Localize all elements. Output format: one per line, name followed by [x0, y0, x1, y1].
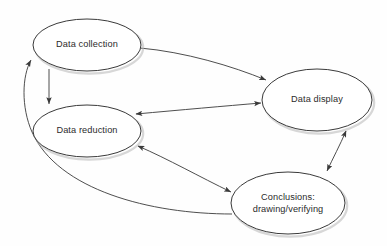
node-data-collection[interactable]	[33, 19, 141, 71]
nodes-layer	[33, 19, 374, 237]
edge-display-conclusions	[327, 131, 346, 171]
diagram-svg	[0, 0, 387, 246]
node-conclusions[interactable]	[231, 172, 345, 234]
diagram-canvas: Data collectionData reductionData displa…	[0, 0, 387, 246]
edge-reduction-conclusions	[138, 146, 231, 192]
node-data-reduction[interactable]	[33, 105, 141, 157]
edge-collection-to-display	[140, 48, 266, 80]
node-data-display[interactable]	[262, 69, 372, 131]
edge-reduction-display	[136, 103, 261, 114]
